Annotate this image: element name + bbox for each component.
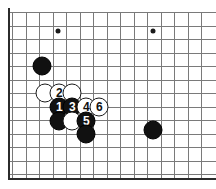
grid-line-vertical-9: [134, 12, 135, 178]
stone-black-upper-left: [33, 57, 52, 76]
grid-line-horizontal-10: [9, 147, 216, 148]
stone-move-number: 6: [96, 101, 102, 113]
stone-black-right: [144, 121, 163, 140]
grid-line-horizontal-5: [9, 80, 216, 81]
grid-line-vertical-12: [174, 12, 175, 178]
grid-line-vertical-14: [201, 12, 202, 178]
grid-line-horizontal-1: [9, 26, 216, 27]
go-board-diagram: 213465: [0, 0, 216, 189]
grid-line-horizontal-2: [9, 39, 216, 40]
grid-line-vertical-1: [26, 12, 27, 178]
grid-line-vertical-8: [120, 12, 121, 178]
stone-black-bottom: [77, 125, 96, 144]
grid-line-vertical-11: [161, 12, 162, 178]
board-edge-bottom: [8, 178, 216, 180]
grid-line-horizontal-0: [9, 12, 216, 13]
board-edge-left: [8, 8, 10, 180]
grid-line-vertical-7: [107, 12, 108, 178]
grid-line-horizontal-9: [9, 134, 216, 135]
grid-line-vertical-13: [188, 12, 189, 178]
grid-line-horizontal-8: [9, 120, 216, 121]
grid-line-vertical-6: [93, 12, 94, 178]
grid-line-horizontal-12: [9, 174, 216, 175]
grid-line-vertical-10: [147, 12, 148, 178]
grid-line-horizontal-11: [9, 161, 216, 162]
grid-line-horizontal-3: [9, 53, 216, 54]
grid-line-horizontal-7: [9, 107, 216, 108]
star-point-left-icon: [56, 29, 61, 34]
star-point-right-icon: [151, 29, 156, 34]
grid-line-vertical-0: [12, 12, 13, 178]
